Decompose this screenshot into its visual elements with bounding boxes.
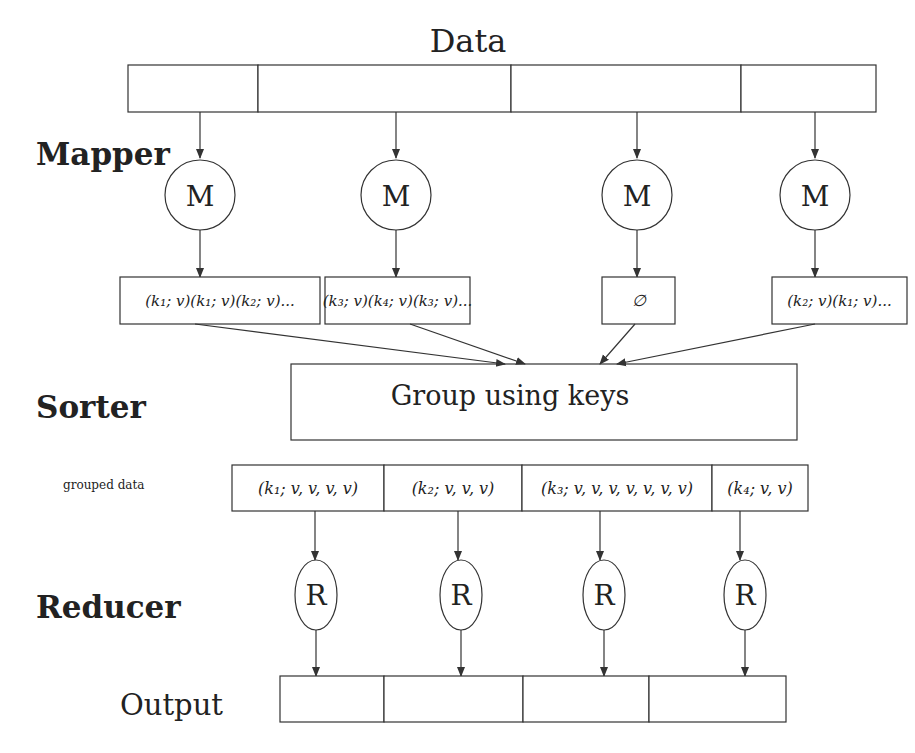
mapper-node-label: M: [623, 180, 652, 213]
mapper-group: M(k₁; v)(k₁; v)(k₂; v)...M(k₃; v)(k₄; v)…: [120, 112, 907, 324]
output-cell: [280, 676, 384, 722]
reducer-node-label: R: [450, 579, 472, 612]
data-cell: [741, 65, 876, 112]
map-to-sorter-arrow: [195, 324, 505, 364]
data-cell: [258, 65, 511, 112]
reducer-node-label: R: [305, 579, 327, 612]
reducer-node-label: R: [593, 579, 615, 612]
map-to-sorter-arrow: [617, 324, 815, 364]
grouped-cell-text: (k₁; v, v, v, v): [258, 479, 358, 498]
sorter-box-label: Group using keys: [391, 380, 630, 411]
reducer-node-label: R: [734, 579, 756, 612]
output-cell: [649, 676, 786, 722]
mapper-node-label: M: [382, 180, 411, 213]
grouped-cell-text: (k₂; v, v, v): [412, 479, 495, 498]
data-bar: [128, 65, 876, 112]
stage-label-output: Output: [120, 688, 223, 722]
mapper-node-label: M: [801, 180, 830, 213]
map-to-sorter-arrow: [600, 324, 635, 364]
grouped-data-bar: (k₁; v, v, v, v)(k₂; v, v, v)(k₃; v, v, …: [232, 465, 808, 511]
stage-label-sorter: Sorter: [36, 389, 146, 425]
mapper-output-text: ∅: [632, 291, 647, 310]
grouped-cell-text: (k₃; v, v, v, v, v, v, v): [541, 479, 693, 498]
mapper-output-text: (k₃; v)(k₄; v)(k₃; v)...: [323, 292, 473, 310]
data-cell: [511, 65, 741, 112]
mapreduce-diagram: Data Mapper Sorter grouped data Reducer …: [0, 0, 915, 753]
grouped-cell-text: (k₄; v, v): [727, 479, 792, 498]
grouped-data-label: grouped data: [63, 478, 144, 492]
mapper-output-text: (k₁; v)(k₁; v)(k₂; v)...: [145, 292, 295, 310]
sorter-arrows: [195, 324, 815, 364]
output-cell: [523, 676, 649, 722]
mapper-output-text: (k₂; v)(k₁; v)...: [787, 292, 892, 310]
output-cell: [384, 676, 523, 722]
map-to-sorter-arrow: [410, 324, 525, 364]
stage-label-mapper: Mapper: [36, 136, 170, 172]
reducer-group: RRRR: [295, 511, 766, 676]
data-cell: [128, 65, 258, 112]
output-bar: [280, 676, 786, 722]
data-title: Data: [430, 22, 507, 60]
stage-label-reducer: Reducer: [36, 589, 181, 625]
mapper-node-label: M: [186, 180, 215, 213]
